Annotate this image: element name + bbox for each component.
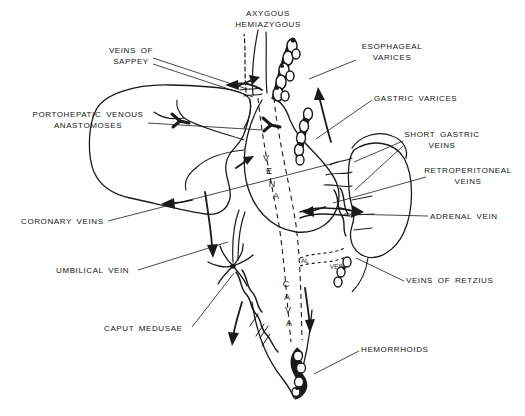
label-hemorrhoids: HEMORRHOIDS — [361, 344, 429, 355]
gastric-varices-mass — [295, 108, 313, 165]
label-veins-of-retzius: VEINS OF RETZIUS — [406, 275, 493, 286]
svg-text:A: A — [273, 191, 279, 201]
mesenteric-collateral-squiggle — [236, 270, 278, 352]
svg-text:AL: AL — [301, 256, 310, 264]
label-line: HEMORRHOIDS — [361, 344, 429, 355]
label-line: VEINS — [422, 176, 514, 187]
label-short-gastric-veins: SHORT GASTRIC VEINS — [402, 129, 482, 151]
umbilical-vein-line — [233, 210, 245, 262]
label-line: ANASTOMOSES — [26, 120, 150, 131]
svg-text:A: A — [284, 292, 290, 302]
label-line: UMBILICAL VEIN — [56, 265, 129, 276]
label-line: ADRENAL VEIN — [430, 211, 498, 222]
label-line: VEINS OF — [96, 45, 166, 56]
label-line: VARICES — [350, 52, 434, 63]
label-umbilical-vein: UMBILICAL VEIN — [56, 265, 129, 276]
label-line: PORTOHEPATIC VENOUS — [26, 109, 150, 120]
svg-text:E: E — [266, 166, 272, 176]
label-line: CAPUT MEDUSAE — [104, 323, 183, 334]
portal-collateral-circulation-diagram: V E N A C A V A AL VEIN — [0, 0, 525, 416]
anatomy-line-art: V E N A C A V A AL VEIN — [0, 0, 525, 416]
label-portohepatic-venous-anastomoses: PORTOHEPATIC VENOUS ANASTOMOSES — [26, 109, 150, 131]
svg-text:A: A — [286, 318, 292, 328]
label-line: VEINS OF RETZIUS — [406, 275, 493, 286]
label-veins-of-sappey: VEINS OF SAPPEY — [96, 45, 166, 67]
label-gastric-varices: GASTRIC VARICES — [374, 93, 457, 104]
label-coronary-veins: CORONARY VEINS — [21, 216, 104, 227]
label-caput-medusae: CAPUT MEDUSAE — [104, 323, 183, 334]
svg-text:N: N — [269, 179, 276, 189]
label-line: RETROPERITONEAL — [422, 165, 514, 176]
flow-arrows — [161, 75, 364, 346]
label-line: ESOPHAGEAL — [350, 41, 434, 52]
label-line: AXYGOUS — [203, 8, 333, 19]
label-line: CORONARY VEINS — [21, 216, 104, 227]
esophagus-lines — [244, 30, 267, 95]
label-line: HEMIAZYGOUS — [203, 19, 333, 30]
svg-text:C: C — [283, 279, 290, 289]
hemorrhoids-mass — [292, 350, 306, 397]
svg-text:V: V — [263, 153, 269, 163]
label-esophageal-varices: ESOPHAGEAL VARICES — [350, 41, 434, 63]
liver-outline — [89, 85, 262, 214]
esophageal-varices-mass — [273, 38, 300, 102]
label-adrenal-vein: ADRENAL VEIN — [430, 211, 498, 222]
svg-text:V: V — [285, 305, 291, 315]
label-line: GASTRIC VARICES — [374, 93, 457, 104]
label-line: VEINS — [402, 140, 482, 151]
label-line: SAPPEY — [96, 56, 166, 67]
label-retroperitoneal-veins: RETROPERITONEAL VEINS — [422, 165, 514, 187]
portohepatic-anastomosis-marks — [172, 114, 280, 131]
label-azygous-hemiazygous: AXYGOUS HEMIAZYGOUS — [203, 8, 333, 30]
label-line: SHORT GASTRIC — [402, 129, 482, 140]
